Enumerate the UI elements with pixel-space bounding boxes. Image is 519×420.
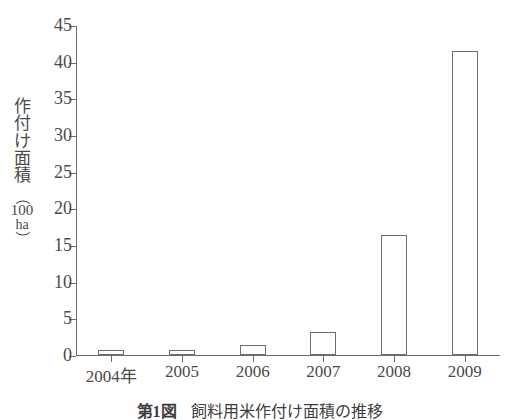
x-tick-label: 2008 [377,362,411,382]
figure-number: 第1図 [137,403,177,420]
y-tick-label: 25 [54,162,72,183]
y-tick-label: 45 [54,15,72,36]
y-axis-unit: （ 100 ha ） [6,191,38,244]
figure-caption: 第1図飼料用米作付け面積の推移 [0,398,519,420]
x-axis-labels: 2004年20052006200720082009 [76,362,500,388]
y-tick-label: 10 [54,272,72,293]
y-tick-label: 40 [54,52,72,73]
y-axis-title-chars: 作 付 け 面 積 [6,98,38,185]
figure-title: 飼料用米作付け面積の推移 [191,403,383,420]
x-axis-line [76,355,500,356]
y-axis-title-char: 付 [6,115,38,132]
bar [452,51,478,355]
y-axis-title-char: 面 [6,150,38,167]
y-axis-title: 作 付 け 面 積 （ 100 ha ） [6,98,38,244]
x-tick-label: 2005 [165,362,199,382]
bar [381,235,407,355]
y-tick-label: 0 [63,345,72,366]
y-axis-title-char: 作 [6,98,38,115]
x-tick-label: 2007 [306,362,340,382]
bar [240,345,266,355]
y-tick-label: 30 [54,125,72,146]
chart-page: 作 付 け 面 積 （ 100 ha ） 051015202530354045 … [0,0,519,420]
y-tick-label: 35 [54,88,72,109]
y-axis-unit-open-paren: （ [16,181,28,213]
bar [98,350,124,355]
x-tick-label: 2009 [448,362,482,382]
x-tick-label: 2006 [236,362,270,382]
y-tick-label: 15 [54,235,72,256]
y-tick-label: 20 [54,198,72,219]
bar [169,350,195,355]
y-axis-line [76,26,77,356]
plot-area: 051015202530354045 [76,26,500,356]
y-axis-unit-close-paren: ） [16,222,28,254]
y-tick-label: 5 [63,308,72,329]
x-tick-label: 2004年 [86,362,137,387]
bar [310,332,336,355]
y-axis-title-char: け [6,133,38,150]
